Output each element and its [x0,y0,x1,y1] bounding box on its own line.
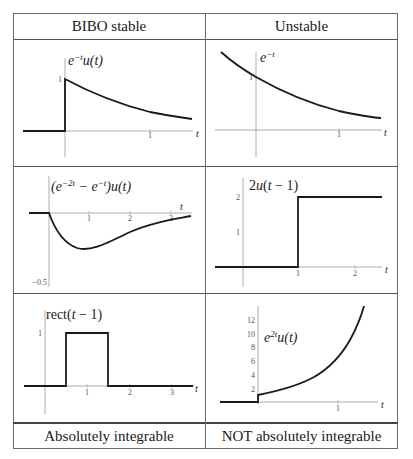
y-tick-neg-0-5: −0.5 [32,278,47,287]
y-tick-12: 12 [247,316,255,325]
x-tick-1: 1 [336,404,340,413]
x-tick-1: 1 [148,131,152,140]
signal-curve [221,52,381,118]
x-tick-3: 3 [169,214,173,223]
plot-bottom-right: 1 2 4 6 8 10 12 t e2tu(t) [220,306,384,413]
x-tick-1: 1 [87,214,91,223]
y-tick-8: 8 [251,343,255,352]
y-tick-2: 2 [236,193,240,202]
x-axis-label: t [381,399,384,410]
function-label: e−t [260,49,275,65]
x-tick-1: 1 [337,130,341,139]
signal-curve [220,306,364,402]
plots-canvas: 1 1 t e−tu(t) 1 1 t e−t 1 2 3 −0.5 t (e−… [0,0,413,459]
y-tick-6: 6 [251,357,255,366]
x-axis-label: t [196,128,199,139]
plot-bottom-left: 1 2 3 1 t rect(t − 1) [24,307,198,414]
signal-curve [215,197,382,267]
y-tick-1: 1 [236,228,240,237]
x-axis-label: t [195,383,198,394]
plot-top-left: 1 1 t e−tu(t) [23,52,199,157]
signal-curve [29,213,191,249]
x-tick-2: 2 [128,214,132,223]
y-tick-10: 10 [247,330,255,339]
x-axis-label: t [384,127,387,138]
plot-top-right: 1 1 t e−t [215,49,387,157]
function-label: rect(t − 1) [46,307,102,323]
function-label: 2u(t − 1) [249,178,298,194]
y-tick-1: 1 [58,75,62,84]
y-tick-2: 2 [251,385,255,394]
x-tick-1: 1 [296,269,300,278]
y-tick-4: 4 [251,371,255,380]
function-label: e2tu(t) [264,329,298,346]
signal-curve [23,79,192,131]
x-axis-label: t [180,201,183,212]
function-label: e−tu(t) [68,52,103,69]
x-tick-3: 3 [170,388,174,397]
y-tick-1: 1 [38,329,42,338]
function-label: (e−2t − e−t)u(t) [51,178,131,195]
x-tick-2: 2 [128,388,132,397]
plot-middle-left: 1 2 3 −0.5 t (e−2t − e−t)u(t) [29,176,192,287]
plot-middle-right: 1 2 2 1 t 2u(t − 1) [215,178,388,287]
x-tick-2: 2 [353,269,357,278]
x-axis-label: t [385,264,388,275]
signal-curve [24,333,193,386]
x-tick-1: 1 [85,388,89,397]
